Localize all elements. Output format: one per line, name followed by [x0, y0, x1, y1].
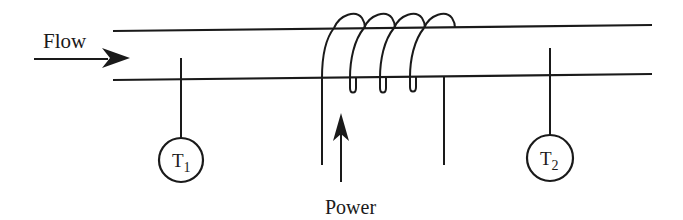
sensor-t2-subscript: 2 [552, 158, 559, 173]
flow-label: Flow [43, 29, 87, 53]
svg-text:T1: T1 [172, 150, 191, 175]
sensor-t1: T1 [159, 58, 203, 182]
sensor-t2: T2 [527, 48, 573, 181]
power-arrow [333, 113, 349, 182]
sensor-t1-subscript: 1 [184, 160, 191, 175]
pipe-upper-wall [113, 25, 652, 31]
sensor-t1-letter: T [172, 150, 184, 171]
svg-text:T2: T2 [540, 148, 559, 173]
sensor-t2-letter: T [540, 148, 552, 169]
flow-heating-diagram: Flow Power T1 T2 [0, 0, 683, 220]
pipe-lower-wall [113, 74, 652, 80]
power-label: Power [325, 196, 376, 218]
